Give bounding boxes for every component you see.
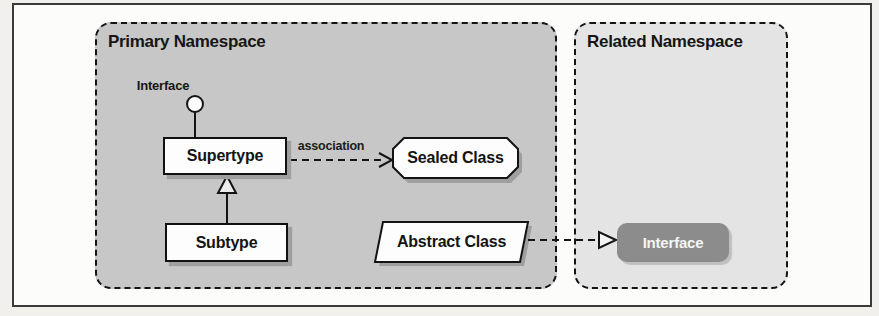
lollipop-interface-label: Interface (133, 78, 193, 93)
figure: Primary Namespace Related Namespace Seal… (0, 0, 879, 316)
sealed-class-node: Sealed Class (393, 138, 518, 178)
sealed-class-label: Sealed Class (407, 149, 503, 167)
supertype-label: Supertype (187, 147, 263, 165)
subtype-label: Subtype (196, 234, 258, 252)
related-interface-label: Interface (643, 234, 704, 251)
primary-namespace-title: Primary Namespace (108, 32, 265, 52)
related-namespace-title: Related Namespace (587, 32, 743, 52)
abstract-class-label: Abstract Class (397, 233, 506, 251)
abstract-class-node: Abstract Class (379, 222, 524, 262)
subtype-node: Subtype (165, 223, 288, 262)
association-edge-label: association (293, 139, 369, 153)
related-interface-node: Interface (617, 223, 729, 262)
supertype-node: Supertype (163, 137, 287, 175)
